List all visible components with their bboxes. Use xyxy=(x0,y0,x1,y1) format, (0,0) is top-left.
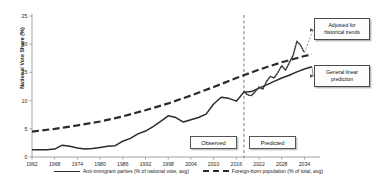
legend-solid-line-icon xyxy=(54,171,80,172)
legend-dashed-line-icon xyxy=(203,170,229,172)
x-tick-label: 2034 xyxy=(299,161,311,167)
x-tick-label: 1998 xyxy=(162,161,174,167)
y-tick-label: 10 xyxy=(22,98,28,104)
adjusted-callout-line2: historical trends xyxy=(324,29,360,35)
legend-label-anti-immigrant: Anti-immigrant parties (% of national vo… xyxy=(83,168,189,174)
x-tick-label: 1968 xyxy=(49,161,61,167)
x-tick-label: 1962 xyxy=(26,161,38,167)
legend-label-foreign-born: Foreign-born population (% of total, avg… xyxy=(232,168,323,174)
chart-legend: Anti-immigrant parties (% of national vo… xyxy=(0,168,377,174)
adjusted-callout-line1: Adjusted for xyxy=(328,22,355,28)
linear-callout-line1: General linear xyxy=(326,69,358,75)
y-tick-label: 0 xyxy=(25,154,28,160)
x-tick-label: 2022 xyxy=(253,161,265,167)
adjusted-callout-leader xyxy=(304,30,313,53)
linear-callout-leader xyxy=(312,67,313,76)
x-tick-label: 2028 xyxy=(276,161,288,167)
x-tick-label: 2004 xyxy=(185,161,197,167)
series-line-1 xyxy=(32,54,312,131)
linear-prediction-callout: General linear prediction xyxy=(314,65,370,87)
adjusted-trend-callout: Adjusted for historical trends xyxy=(314,18,370,40)
y-tick-label: 20 xyxy=(22,41,28,47)
observed-band-label: Observed xyxy=(190,136,237,149)
y-tick-label: 25 xyxy=(22,13,28,19)
x-tick-label: 1986 xyxy=(117,161,129,167)
x-tick-label: 1980 xyxy=(94,161,106,167)
x-tick-label: 2010 xyxy=(208,161,220,167)
x-tick-label: 1992 xyxy=(140,161,152,167)
series-line-2 xyxy=(244,41,305,95)
predicted-band-label: Predicted xyxy=(249,136,296,149)
x-tick-label: 1974 xyxy=(72,161,84,167)
legend-item-foreign-born: Foreign-born population (% of total, avg… xyxy=(203,168,323,174)
y-tick-label: 5 xyxy=(25,126,28,132)
x-tick-label: 2016 xyxy=(231,161,243,167)
legend-item-anti-immigrant: Anti-immigrant parties (% of national vo… xyxy=(54,168,189,174)
linear-callout-line2: prediction xyxy=(331,76,353,82)
y-tick-label: 15 xyxy=(22,69,28,75)
chart-container: National Vote Share (%) 0510152025196219… xyxy=(0,0,377,190)
